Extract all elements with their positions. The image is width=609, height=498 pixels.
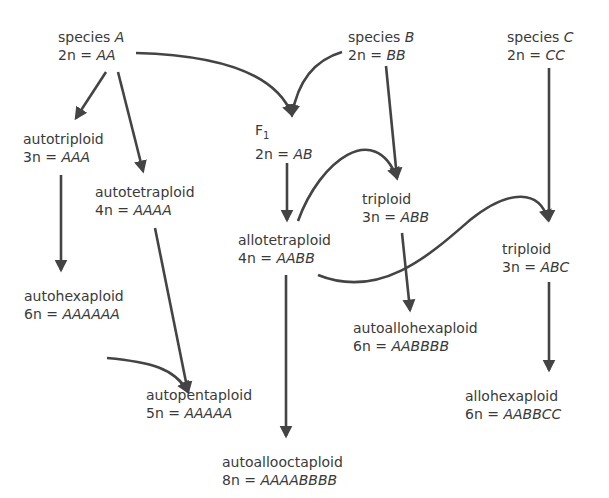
node-species-a: species A 2n = AA	[58, 28, 124, 64]
edge-speciesA-f1	[136, 53, 292, 115]
node-autohexaploid: autohexaploid 6n = AAAAAA	[24, 287, 124, 323]
node-f1: F1 2n = AB	[255, 121, 313, 163]
node-autoallohexaploid: autoallohexaploid 6n = AABBBB	[353, 319, 478, 355]
edge-speciesB-f1	[292, 52, 342, 115]
node-triploid-abb: triploid 3n = ABB	[362, 190, 429, 226]
node-allohexaploid: allohexaploid 6n = AABBCC	[465, 387, 561, 423]
node-autopentaploid: autopentaploid 5n = AAAAA	[146, 386, 252, 422]
edge-speciesA-autotetraploid	[118, 72, 143, 171]
node-autotetraploid: autotetraploid 4n = AAAA	[95, 183, 195, 219]
node-triploid-abc: triploid 3n = ABC	[502, 240, 569, 276]
edge-triploidABB-autoallohexaploid	[402, 233, 410, 310]
node-autotriploid: autotriploid 3n = AAA	[23, 130, 104, 166]
node-allotetraploid: allotetraploid 4n = AABB	[238, 231, 331, 267]
node-species-c: species C 2n = CC	[507, 28, 574, 64]
node-autoallooctaploid: autoallooctaploid 8n = AAAABBBB	[222, 453, 343, 489]
edge-speciesA-autotriploid	[76, 72, 106, 118]
node-species-b: species B 2n = BB	[348, 28, 414, 64]
